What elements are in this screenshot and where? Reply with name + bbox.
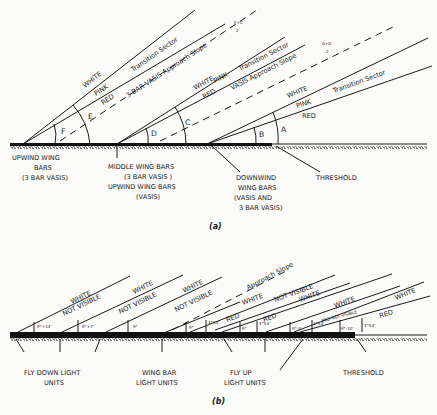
svg-text:2: 2 bbox=[326, 49, 329, 54]
fly-down-sectors: θ°+14' θ°+7' θ° WHITE NOT VISIBLE WHITE … bbox=[18, 275, 222, 332]
leader-fly-up-3 bbox=[280, 339, 303, 370]
caption-a: (a) bbox=[209, 222, 222, 231]
svg-text:θ°+7': θ°+7' bbox=[82, 324, 94, 329]
svg-text:WHITE: WHITE bbox=[394, 286, 417, 302]
angle-label-a: A bbox=[281, 125, 287, 134]
svg-text:θ°+14': θ°+14' bbox=[37, 324, 52, 329]
label-fly-down-1: FLY DOWN LIGHT bbox=[24, 369, 81, 377]
svg-text:WHITE: WHITE bbox=[333, 295, 356, 310]
angle-label-c: C bbox=[185, 118, 190, 127]
svg-text:RED: RED bbox=[302, 112, 316, 120]
angle-label-d: D bbox=[151, 129, 157, 138]
label-downwind-4: 3 BAR VASIS) bbox=[239, 204, 283, 212]
svg-text:2: 2 bbox=[236, 28, 239, 33]
part-a: F E WHITE PINK RED Transition Sector 3-B… bbox=[10, 8, 432, 231]
svg-text:NOT VISIBLE: NOT VISIBLE bbox=[173, 289, 214, 314]
angle-label-e: E bbox=[88, 112, 93, 121]
label-fly-up-1: FLY UP bbox=[230, 369, 252, 377]
leader-threshold-a bbox=[276, 146, 320, 172]
label-downwind-2: WING BARS bbox=[238, 184, 276, 192]
label-fly-down-2: UNITS bbox=[44, 379, 64, 387]
svg-text:θ°-10': θ°-10' bbox=[341, 326, 354, 331]
diagram-canvas: F E WHITE PINK RED Transition Sector 3-B… bbox=[0, 0, 437, 415]
leader-downwind bbox=[212, 146, 240, 172]
label-wing-bar-2: LIGHT UNITS bbox=[136, 379, 178, 387]
label-downwind-1: DOWNWIND bbox=[236, 174, 276, 182]
approach-slope-label: Approach Slope bbox=[245, 260, 294, 291]
label-upwind-wing-2: BARS bbox=[34, 164, 52, 172]
label-threshold-a: THRESHOLD bbox=[315, 174, 357, 182]
angle-arc-b bbox=[254, 127, 256, 144]
vasis-diagram: F E WHITE PINK RED Transition Sector 3-B… bbox=[0, 0, 437, 415]
label-middle-4: (VASIS) bbox=[136, 193, 160, 201]
runway-surface-b bbox=[10, 332, 355, 338]
svg-text:1°54': 1°54' bbox=[208, 320, 219, 325]
svg-text:RED: RED bbox=[100, 92, 116, 106]
svg-text:1°54': 1°54' bbox=[364, 323, 375, 328]
svg-text:F+C: F+C bbox=[234, 20, 243, 25]
angle-arc-a bbox=[273, 112, 278, 144]
label-fly-up-2: LIGHT UNITS bbox=[224, 379, 266, 387]
ground-hatch-a bbox=[10, 146, 427, 149]
svg-text:PINK: PINK bbox=[212, 70, 230, 85]
downwind-sector: B A WHITE PINK RED Transition Sector bbox=[207, 38, 432, 144]
label-upwind-wing-1: UPWIND WING bbox=[12, 154, 60, 162]
label-threshold-b: THRESHOLD bbox=[342, 369, 384, 377]
svg-text:WHITE: WHITE bbox=[286, 84, 309, 100]
svg-text:θ°: θ° bbox=[242, 326, 247, 331]
label-middle-3: UPWIND WING BARS bbox=[108, 183, 176, 191]
part-b: θ°+14' θ°+7' θ° WHITE NOT VISIBLE WHITE … bbox=[10, 260, 430, 406]
label-wing-bar-1: WING BAR bbox=[142, 369, 177, 377]
angle-arc-e bbox=[73, 105, 90, 144]
angle-label-f: F bbox=[61, 127, 65, 136]
runway-surface-a bbox=[10, 143, 272, 146]
ground-hatch-b bbox=[10, 338, 427, 341]
angle-arc-d bbox=[146, 128, 148, 144]
angle-arc-f bbox=[54, 124, 56, 144]
label-middle-2: (3 BAR VASIS ) bbox=[124, 173, 172, 181]
label-upwind-wing-3: (3 BAR VASIS) bbox=[22, 174, 68, 182]
label-downwind-3: (VASIS AND bbox=[234, 194, 272, 202]
svg-text:θ°-5': θ°-5' bbox=[292, 326, 302, 331]
label-middle-1: MIDDLE WING BARS bbox=[108, 163, 174, 171]
svg-text:A+D: A+D bbox=[322, 41, 332, 46]
svg-text:θ°: θ° bbox=[189, 325, 194, 330]
angle-label-b: B bbox=[259, 130, 264, 139]
caption-b: (b) bbox=[212, 397, 225, 406]
svg-text:θ°: θ° bbox=[133, 324, 138, 329]
